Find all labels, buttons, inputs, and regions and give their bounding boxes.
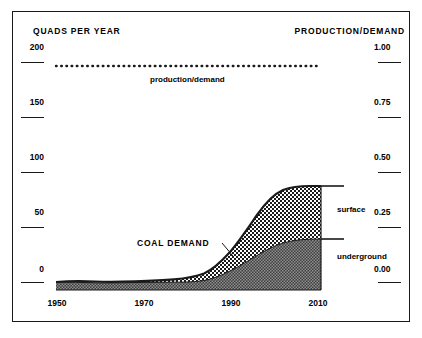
production-demand-label: production/demand xyxy=(150,75,225,84)
chart-figure: QUADS PER YEAR PRODUCTION/DEMAND 200 150… xyxy=(0,0,422,338)
surface-series-label: surface xyxy=(337,205,365,214)
underground-series-label: underground xyxy=(337,252,387,261)
chart-plot-area xyxy=(0,0,422,338)
coal-demand-label: COAL DEMAND xyxy=(137,238,209,248)
